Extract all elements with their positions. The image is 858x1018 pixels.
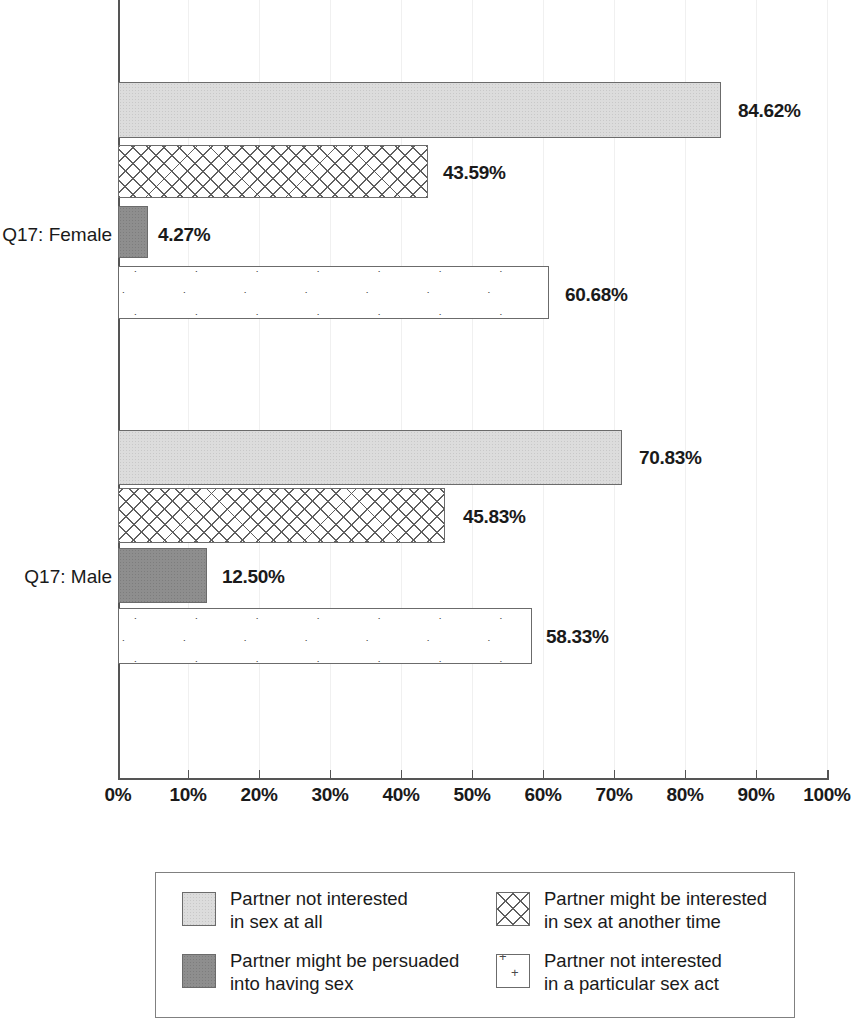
x-tick bbox=[259, 770, 260, 779]
plus-glyph: + bbox=[499, 954, 507, 963]
bar-value-label: 12.50% bbox=[222, 566, 285, 588]
x-axis-line bbox=[118, 778, 829, 780]
bar-male-interested-another-time bbox=[118, 488, 445, 543]
x-axis-left-cap bbox=[118, 770, 120, 779]
category-label-male: Q17: Male bbox=[0, 566, 112, 588]
x-tick-label-50: 50% bbox=[442, 784, 502, 806]
bar-female-might-be-persuaded bbox=[118, 206, 148, 258]
bar-value-label: 45.83% bbox=[463, 506, 526, 528]
plus-pattern-row: + + + + + + + + + + + + + + + bbox=[119, 640, 531, 641]
bar-value-label: 4.27% bbox=[158, 224, 210, 246]
legend-label: Partner might be persuaded into having s… bbox=[230, 949, 490, 995]
x-tick-label-0: 0% bbox=[88, 784, 148, 806]
plus-pattern-row: + + + + + + + + + + + + + + + + bbox=[131, 314, 549, 315]
x-tick-label-100: 100% bbox=[794, 784, 858, 806]
x-tick bbox=[685, 770, 686, 779]
x-tick-label-30: 30% bbox=[300, 784, 360, 806]
x-tick bbox=[188, 770, 189, 779]
bar-female-interested-another-time bbox=[118, 145, 428, 198]
bar-value-label: 84.62% bbox=[738, 100, 801, 122]
bar-value-label: 70.83% bbox=[639, 447, 702, 469]
plus-pattern-row: + + + + + + + + + + + + + + + bbox=[131, 661, 532, 662]
legend-swatch-dark-stipple-icon bbox=[182, 954, 216, 988]
legend-swatch-plus-icon: + + bbox=[496, 954, 530, 988]
x-tick-label-70: 70% bbox=[584, 784, 644, 806]
plus-pattern-row: + + + + + + + + + + + + + + + + bbox=[119, 292, 548, 293]
legend-label: Partner not interested in sex at all bbox=[230, 887, 470, 933]
x-tick-label-80: 80% bbox=[655, 784, 715, 806]
bar-female-not-interested-particular-act: + + + + + + + + + + + + + + + + + + + + … bbox=[118, 266, 549, 319]
bar-male-not-interested-particular-act: + + + + + + + + + + + + + + + + + + + + … bbox=[118, 608, 532, 664]
x-tick bbox=[543, 770, 544, 779]
legend-swatch-light-stipple-icon bbox=[182, 892, 216, 926]
bar-male-might-be-persuaded bbox=[118, 548, 207, 603]
x-tick bbox=[330, 770, 331, 779]
legend-swatch-crosshatch-icon bbox=[496, 892, 530, 926]
x-tick-label-10: 10% bbox=[158, 784, 218, 806]
gridline bbox=[827, 0, 828, 778]
bar-value-label: 43.59% bbox=[443, 162, 506, 184]
plus-pattern-row: + + + + + + + + + + + + + + + bbox=[131, 618, 532, 619]
x-tick-label-20: 20% bbox=[229, 784, 289, 806]
x-tick bbox=[472, 770, 473, 779]
legend-label: Partner might be interested in sex at an… bbox=[544, 887, 794, 933]
legend: Partner not interested in sex at all Par… bbox=[155, 872, 795, 1018]
bar-male-not-interested-at-all bbox=[118, 430, 622, 485]
bar-value-label: 60.68% bbox=[565, 284, 628, 306]
bar-value-label: 58.33% bbox=[546, 626, 609, 648]
bar-female-not-interested-at-all bbox=[118, 82, 721, 138]
x-tick-label-60: 60% bbox=[513, 784, 573, 806]
x-tick bbox=[756, 770, 757, 779]
x-tick-label-90: 90% bbox=[726, 784, 786, 806]
x-tick-label-40: 40% bbox=[371, 784, 431, 806]
x-tick bbox=[401, 770, 402, 779]
plus-pattern-row: + + + + + + + + + + + + + + + + bbox=[131, 271, 549, 272]
x-axis-right-cap bbox=[827, 770, 829, 779]
plus-glyph: + bbox=[511, 966, 519, 979]
category-label-female: Q17: Female bbox=[0, 224, 112, 246]
legend-label: Partner not interested in a particular s… bbox=[544, 949, 794, 995]
x-tick bbox=[614, 770, 615, 779]
